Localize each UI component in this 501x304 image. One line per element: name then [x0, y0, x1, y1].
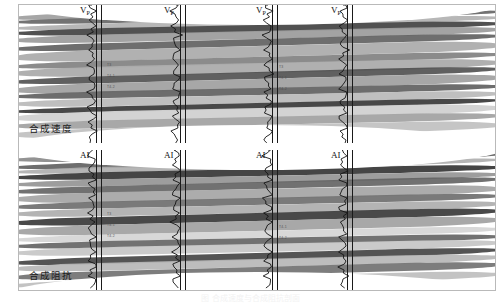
panel-caption-impedance: 合成阻抗 — [29, 268, 73, 282]
horizon-tag: T4-2 — [279, 87, 287, 91]
well-casing-line-right — [277, 150, 278, 290]
well-log-curve — [84, 150, 100, 290]
well-casing-line-right — [101, 150, 102, 290]
well-log-curve — [168, 150, 184, 290]
horizon-tag: T4-2 — [107, 85, 115, 89]
panel-synthetic-velocity: VPVPVPVP T3T3T4-1T4-1T4-2T4-2 合成速度 — [19, 5, 495, 143]
figure-caption: 图 合成速度与合成阻抗剖面 — [0, 292, 501, 303]
well-label-4: VP — [331, 6, 341, 16]
well-casing-line-right — [101, 5, 102, 143]
well-log-curve — [260, 5, 276, 143]
well-log-curve — [260, 150, 276, 290]
well-label-1: AI — [80, 151, 90, 160]
well-casing-line-right — [352, 5, 353, 143]
well-log-curve — [168, 5, 184, 143]
panel-synthetic-impedance: AIAIAIAI T3T3T4-1T4-1T4-2T4-2 合成阻抗 — [19, 150, 495, 290]
well-label-2: VP — [164, 6, 174, 16]
well-log-curve — [335, 5, 351, 143]
horizon-tag: T4-2 — [279, 236, 287, 240]
horizon-tag: T3 — [107, 212, 111, 216]
well-log-curve — [335, 150, 351, 290]
horizon-tag: T3 — [107, 63, 111, 67]
panel-caption-velocity: 合成速度 — [29, 121, 73, 135]
horizon-tag: T4-1 — [279, 76, 287, 80]
well-casing-line-right — [352, 150, 353, 290]
horizon-tag: T3 — [279, 65, 283, 69]
well-label-1: VP — [80, 6, 90, 16]
well-log-curve — [84, 5, 100, 143]
seismic-section-figure: VPVPVPVP T3T3T4-1T4-1T4-2T4-2 合成速度 AIAIA… — [0, 0, 501, 304]
well-label-3: VP — [256, 6, 266, 16]
well-casing-line-right — [185, 150, 186, 290]
well-label-3: AI — [256, 151, 266, 160]
well-label-2: AI — [164, 151, 174, 160]
horizon-tag: T4-2 — [107, 234, 115, 238]
horizon-tag: T4-1 — [107, 74, 115, 78]
well-label-4: AI — [331, 151, 341, 160]
well-casing-line-right — [185, 5, 186, 143]
horizon-tag: T4-1 — [107, 223, 115, 227]
horizon-tag: T3 — [279, 214, 283, 218]
well-casing-line-right — [277, 5, 278, 143]
horizon-tag: T4-1 — [279, 225, 287, 229]
